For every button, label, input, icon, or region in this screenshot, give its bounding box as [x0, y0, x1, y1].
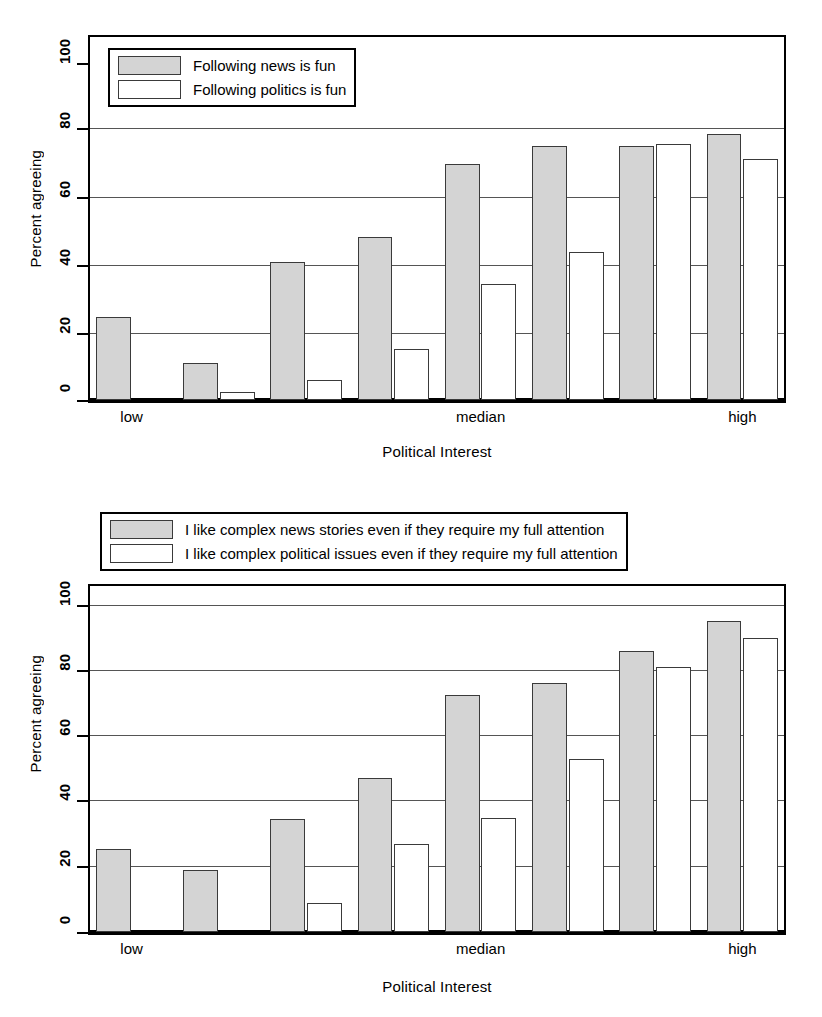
y-axis-tick-label: 80 [56, 112, 73, 129]
bar [96, 317, 131, 400]
legend-label: Following news is fun [193, 58, 336, 73]
y-axis-title-bottom: Percent agreeing [27, 655, 44, 772]
y-axis-tick-label: 100 [56, 581, 73, 606]
y-axis-tick-label: 80 [56, 654, 73, 671]
x-axis-tick-label: high [728, 940, 756, 957]
bar [445, 695, 480, 932]
bar [532, 146, 567, 400]
legend-label: Following politics is fun [193, 82, 346, 97]
bar [481, 818, 516, 932]
x-axis-title-top: Political Interest [382, 443, 491, 460]
y-axis-tick-label: 20 [56, 317, 73, 334]
y-axis-tick-label: 0 [56, 384, 73, 392]
bar [183, 363, 218, 400]
bar [656, 144, 691, 400]
x-axis-line-top [88, 400, 786, 403]
bar [743, 638, 778, 932]
x-axis-tick-label: low [120, 408, 143, 425]
bar [220, 392, 255, 400]
bar [96, 849, 131, 932]
x-axis-title-bottom: Political Interest [382, 978, 491, 995]
bar [270, 819, 305, 932]
bar [358, 237, 393, 400]
bar [394, 844, 429, 932]
legend-item: Following politics is fun [118, 79, 346, 100]
legend-swatch-gray-icon [118, 56, 181, 75]
chart-bottom: I like complex news stories even if they… [0, 500, 822, 1017]
chart-top: Percent agreeing 020406080100 lowmedianh… [0, 0, 822, 500]
legend-item: I like complex political issues even if … [110, 543, 618, 564]
bar [743, 159, 778, 400]
x-axis-tick-label: median [456, 408, 505, 425]
legend-swatch-gray-icon [110, 520, 173, 539]
bar [707, 134, 742, 400]
bar [270, 262, 305, 400]
bar [619, 146, 654, 400]
y-axis-tick-label: 40 [56, 784, 73, 801]
x-axis-tick-label: median [456, 940, 505, 957]
bar [358, 778, 393, 932]
legend-item: Following news is fun [118, 55, 346, 76]
x-axis-tick-label: high [728, 408, 756, 425]
y-axis-tick-label: 60 [56, 181, 73, 198]
bar [307, 380, 342, 400]
bar [619, 651, 654, 932]
plot-area-bottom: I like complex news stories even if they… [0, 500, 822, 1017]
legend-top: Following news is fun Following politics… [108, 48, 356, 107]
y-axis-tick-label: 60 [56, 719, 73, 736]
bar [445, 164, 480, 400]
y-axis-tick-label: 40 [56, 249, 73, 266]
legend-label: I like complex news stories even if they… [185, 522, 604, 537]
bar [307, 903, 342, 932]
bar [183, 870, 218, 932]
y-axis-tick-label: 100 [56, 39, 73, 64]
legend-bottom: I like complex news stories even if they… [100, 512, 628, 571]
x-axis-line-bottom [88, 932, 786, 935]
bar [569, 252, 604, 400]
bar [481, 284, 516, 400]
legend-swatch-white-icon [110, 544, 173, 563]
bar [394, 349, 429, 400]
bar [532, 683, 567, 932]
bar [656, 667, 691, 932]
bar [569, 759, 604, 932]
y-axis-tick-label: 0 [56, 916, 73, 924]
y-axis-title-top: Percent agreeing [27, 150, 44, 267]
legend-label: I like complex political issues even if … [185, 546, 618, 561]
x-axis-tick-label: low [120, 940, 143, 957]
y-axis-tick-label: 20 [56, 850, 73, 867]
bar [707, 621, 742, 932]
legend-swatch-white-icon [118, 80, 181, 99]
plot-area-top: Percent agreeing 020406080100 lowmedianh… [0, 0, 822, 500]
legend-item: I like complex news stories even if they… [110, 519, 618, 540]
